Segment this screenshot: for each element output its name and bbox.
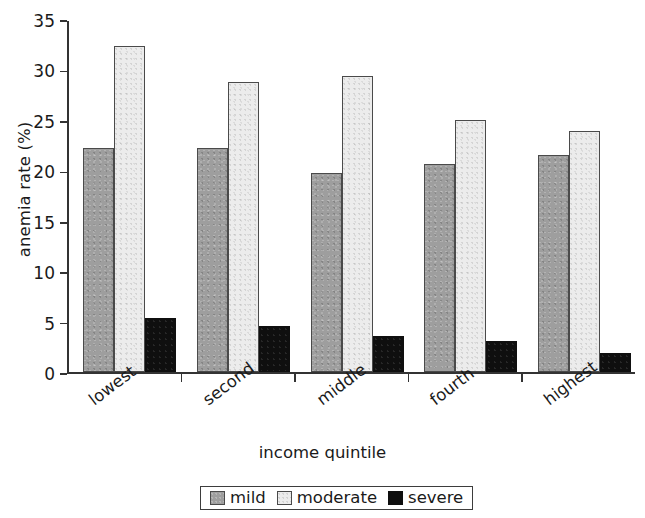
y-axis-tick-label: 25 bbox=[15, 110, 55, 134]
bar-group bbox=[197, 19, 290, 372]
bar-mild-middle bbox=[311, 173, 342, 373]
legend-entry-severe: severe bbox=[388, 489, 463, 506]
y-axis-tick-label: 35 bbox=[15, 9, 55, 33]
y-axis-tick-label: 5 bbox=[15, 312, 55, 336]
y-axis-tick-mark bbox=[60, 323, 67, 325]
y-axis-tick-label: 0 bbox=[15, 362, 55, 386]
bar-group bbox=[83, 19, 176, 372]
y-axis-tick-mark bbox=[60, 373, 67, 375]
x-axis-tick-mark bbox=[181, 374, 183, 382]
bar-severe-middle bbox=[373, 336, 404, 372]
y-axis-tick-label: 20 bbox=[15, 160, 55, 184]
plot-area: 05101520253035 bbox=[67, 21, 635, 374]
bar-moderate-middle bbox=[342, 76, 373, 373]
anemia-rate-bar-chart: anemia rate (%) 05101520253035 lowestsec… bbox=[0, 0, 645, 518]
bar-mild-highest bbox=[538, 155, 569, 373]
legend-entry-mild: mild bbox=[210, 489, 266, 506]
legend: mildmoderatesevere bbox=[200, 486, 473, 510]
legend-label: severe bbox=[408, 489, 463, 506]
legend-swatch-moderate-icon bbox=[277, 491, 292, 505]
x-axis-tick-mark bbox=[521, 374, 523, 382]
bar-severe-fourth bbox=[486, 341, 517, 372]
bar-mild-second bbox=[197, 148, 228, 373]
bar-mild-fourth bbox=[424, 164, 455, 373]
y-axis-line bbox=[67, 21, 69, 374]
legend-swatch-mild-icon bbox=[210, 491, 225, 505]
y-axis-tick-mark bbox=[60, 172, 67, 174]
bar-mild-lowest bbox=[83, 148, 114, 373]
y-axis-tick-label: 30 bbox=[15, 59, 55, 83]
legend-swatch-severe-icon bbox=[388, 491, 403, 505]
y-axis-tick-mark bbox=[60, 20, 67, 22]
bar-severe-highest bbox=[600, 353, 631, 372]
legend-label: mild bbox=[230, 489, 266, 506]
y-axis-tick-mark bbox=[60, 222, 67, 224]
bar-moderate-second bbox=[228, 82, 259, 372]
bar-moderate-fourth bbox=[455, 120, 486, 372]
bar-moderate-highest bbox=[569, 131, 600, 372]
x-axis-tick-mark bbox=[294, 374, 296, 382]
x-axis-tick-mark bbox=[408, 374, 410, 382]
bar-group bbox=[424, 19, 517, 372]
bar-severe-second bbox=[259, 326, 290, 372]
x-axis-title: income quintile bbox=[0, 443, 645, 462]
bar-group bbox=[538, 19, 631, 372]
y-axis-tick-mark bbox=[60, 121, 67, 123]
y-axis-tick-label: 15 bbox=[15, 211, 55, 235]
bar-severe-lowest bbox=[145, 318, 176, 372]
bar-moderate-lowest bbox=[114, 46, 145, 373]
y-axis-tick-mark bbox=[60, 71, 67, 73]
legend-label: moderate bbox=[297, 489, 377, 506]
y-axis-tick-label: 10 bbox=[15, 261, 55, 285]
legend-entry-moderate: moderate bbox=[277, 489, 377, 506]
bar-group bbox=[311, 19, 404, 372]
y-axis-tick-mark bbox=[60, 272, 67, 274]
